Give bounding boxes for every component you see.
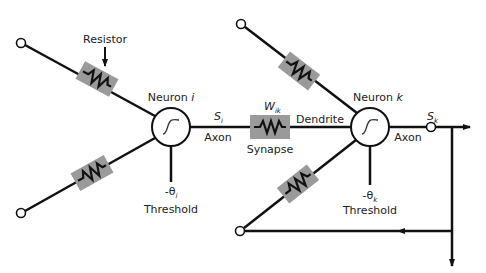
neural-network-diagram: Resistor Neuron i Si Axon Wik Synapse De… — [0, 0, 486, 273]
input-terminal-top-right — [237, 20, 246, 29]
input-terminal-top-left — [17, 39, 26, 48]
neuron-k-label: Neuron k — [353, 91, 403, 104]
dendrite-label: Dendrite — [296, 113, 344, 126]
resistor-bottom-left — [71, 155, 114, 191]
theta-i-label: -θi — [165, 185, 178, 200]
neuron-k — [351, 108, 389, 146]
axon-i-label: Axon — [204, 131, 231, 144]
theta-k-label: -θk — [363, 189, 379, 204]
s-i-label: Si — [214, 110, 223, 125]
threshold-i-label: Threshold — [143, 203, 198, 216]
input-terminal-bottom-right — [236, 227, 245, 236]
input-terminal-bottom-left — [17, 209, 26, 218]
threshold-k-label: Threshold — [342, 204, 397, 217]
s-k-label: Sk — [427, 110, 439, 125]
resistor-label: Resistor — [83, 33, 127, 46]
synapse-label: Synapse — [247, 143, 294, 156]
w-ik-label: Wik — [264, 100, 282, 115]
neuron-i-label: Neuron i — [148, 91, 195, 104]
feedback-arrow-icon — [397, 228, 405, 234]
neuron-i — [152, 108, 190, 146]
synapse-resistor — [250, 115, 290, 139]
axon-k-label: Axon — [394, 131, 421, 144]
